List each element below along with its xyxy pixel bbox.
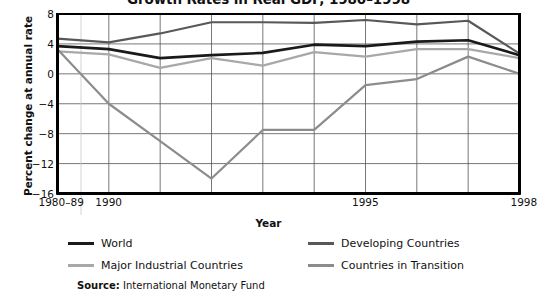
legend-swatch-icon [68, 242, 94, 245]
x-axis-title: Year [0, 217, 537, 229]
source-note: Source: International Monetary Fund [77, 280, 265, 291]
plot-area: 840−4−8−12−16 1980–89199019951998 [0, 0, 537, 215]
legend-item-major-industrial-countries[interactable]: Major Industrial Countries [68, 259, 243, 272]
x-tick-label: 1998 [511, 196, 537, 208]
x-tick-label: 1990 [95, 196, 122, 208]
source-text: International Monetary Fund [123, 280, 265, 291]
legend-item-countries-in-transition[interactable]: Countries in Transition [308, 259, 464, 272]
legend-label: Major Industrial Countries [101, 259, 243, 272]
x-tick-label: 1995 [352, 196, 379, 208]
legend-label: World [101, 237, 133, 250]
x-tick-label: 1980–89 [39, 196, 84, 208]
legend-swatch-icon [308, 264, 334, 267]
legend-label: Developing Countries [341, 237, 460, 250]
x-tick-labels: 1980–89199019951998 [0, 0, 537, 215]
source-label: Source: [77, 280, 120, 291]
legend-swatch-icon [68, 264, 94, 267]
legend-label: Countries in Transition [341, 259, 464, 272]
legend-item-developing-countries[interactable]: Developing Countries [308, 237, 460, 250]
legend-swatch-icon [308, 242, 334, 245]
chart-legend: WorldDeveloping CountriesMajor Industria… [60, 237, 520, 281]
legend-item-world[interactable]: World [68, 237, 133, 250]
chart-figure: Growth Rates in Real GDP, 1980–1998 Perc… [0, 0, 537, 295]
